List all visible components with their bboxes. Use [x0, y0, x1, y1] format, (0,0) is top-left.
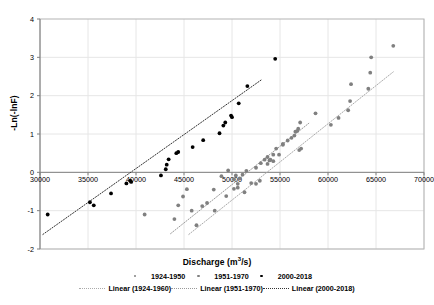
- legend-marker-entry[interactable]: 2000-2018: [249, 272, 312, 281]
- data-point: [226, 169, 230, 173]
- x-axis-title-main: Discharge (m: [183, 257, 238, 267]
- data-point: [238, 177, 242, 181]
- data-point: [176, 150, 180, 154]
- data-point: [237, 101, 241, 105]
- chart-container: 43210-1-23000035000400004500050000550006…: [0, 0, 434, 305]
- data-point: [129, 180, 133, 184]
- legend-dotted-line-icon: [171, 288, 197, 289]
- trendline: [189, 72, 393, 235]
- data-point: [268, 159, 272, 163]
- legend-marker-swatch: [249, 275, 275, 278]
- legend-row-trendlines: Linear (1924-1960)Linear (1951-1970)Line…: [0, 282, 434, 294]
- data-point: [167, 157, 171, 161]
- x-tick-label: 35000: [78, 175, 98, 184]
- data-point: [232, 187, 236, 191]
- data-point: [266, 155, 270, 159]
- data-point: [185, 187, 189, 191]
- data-point: [293, 134, 297, 138]
- data-point: [314, 111, 318, 115]
- data-point: [245, 84, 249, 88]
- x-axis-title: Discharge (m3/s): [0, 256, 434, 267]
- data-point: [249, 181, 253, 185]
- legend-line-swatch: [79, 285, 105, 291]
- series-1951-1970: [173, 121, 304, 221]
- data-point: [273, 57, 277, 61]
- data-point: [295, 129, 299, 133]
- data-point: [299, 147, 303, 151]
- data-point: [346, 108, 350, 112]
- data-point: [213, 209, 217, 213]
- data-point: [181, 195, 185, 199]
- data-point: [212, 188, 216, 192]
- data-point: [241, 173, 245, 177]
- y-tick-label: -1: [28, 206, 34, 215]
- legend-trendline-label: Linear (1924-1960): [108, 284, 171, 293]
- data-point: [266, 162, 270, 166]
- legend-marker-entry[interactable]: 1924-1950: [122, 272, 185, 281]
- data-point: [274, 147, 278, 151]
- legend-dotted-line-icon: [79, 288, 105, 289]
- data-point: [366, 87, 370, 91]
- data-point: [46, 213, 50, 217]
- legend-trendline-entry[interactable]: Linear (1951-1970): [171, 284, 263, 293]
- x-tick-label: 65000: [366, 175, 386, 184]
- legend-dot-icon: [134, 275, 137, 278]
- data-point: [263, 158, 267, 162]
- legend-line-swatch: [171, 285, 197, 291]
- data-point: [143, 213, 147, 217]
- legend-dot-icon: [260, 275, 263, 278]
- data-point: [224, 194, 228, 198]
- legend-trendline-label: Linear (2000-2018): [292, 284, 355, 293]
- data-point: [281, 143, 285, 147]
- legend-trendline-entry[interactable]: Linear (1924-1960): [79, 284, 171, 293]
- data-point: [349, 82, 353, 86]
- x-tick-label: 60000: [318, 175, 338, 184]
- data-point: [164, 167, 168, 171]
- data-point: [369, 55, 373, 59]
- data-point: [391, 44, 395, 48]
- x-axis-title-tail: /s): [241, 257, 251, 267]
- legend-trendline-label: Linear (1951-1970): [200, 284, 263, 293]
- x-tick-label: 55000: [270, 175, 290, 184]
- x-tick-label: 45000: [174, 175, 194, 184]
- data-point: [201, 138, 205, 142]
- data-point: [236, 186, 240, 190]
- series-2000-2018: [46, 57, 277, 216]
- data-point: [218, 131, 222, 135]
- data-point: [109, 192, 113, 196]
- y-tick-label: -2: [28, 245, 34, 254]
- data-point: [173, 217, 177, 221]
- legend-marker-entry[interactable]: 1951-1970: [185, 272, 248, 281]
- data-point: [236, 182, 240, 186]
- legend-marker-swatch: [122, 275, 148, 278]
- legend-row-markers: 1924-19501951-19702000-2018: [0, 270, 434, 282]
- legend-dot-icon: [197, 275, 200, 278]
- data-point: [254, 182, 258, 186]
- data-point: [159, 174, 163, 178]
- y-tick-label: 1: [30, 130, 34, 139]
- legend-marker-label: 1924-1950: [151, 272, 185, 281]
- y-tick-label: 4: [30, 15, 34, 24]
- data-point: [205, 201, 209, 205]
- data-point: [88, 200, 92, 204]
- data-point: [337, 116, 341, 120]
- chart-legend: 1924-19501951-19702000-2018 Linear (1924…: [0, 270, 434, 294]
- data-point: [230, 115, 234, 119]
- y-tick-label: 2: [30, 91, 34, 100]
- data-point: [298, 121, 302, 125]
- data-point: [348, 99, 352, 103]
- trendline: [43, 80, 262, 235]
- y-tick-label: 3: [30, 53, 34, 62]
- data-point: [223, 121, 227, 125]
- data-point: [259, 161, 263, 165]
- data-point: [329, 123, 333, 127]
- data-point: [234, 174, 238, 178]
- data-point: [176, 203, 180, 207]
- legend-marker-label: 1951-1970: [214, 272, 248, 281]
- data-point: [200, 204, 204, 208]
- legend-line-swatch: [263, 285, 289, 291]
- data-point: [190, 209, 194, 213]
- data-point: [368, 71, 372, 75]
- legend-trendline-entry[interactable]: Linear (2000-2018): [263, 284, 355, 293]
- series-1924-1950: [143, 44, 395, 227]
